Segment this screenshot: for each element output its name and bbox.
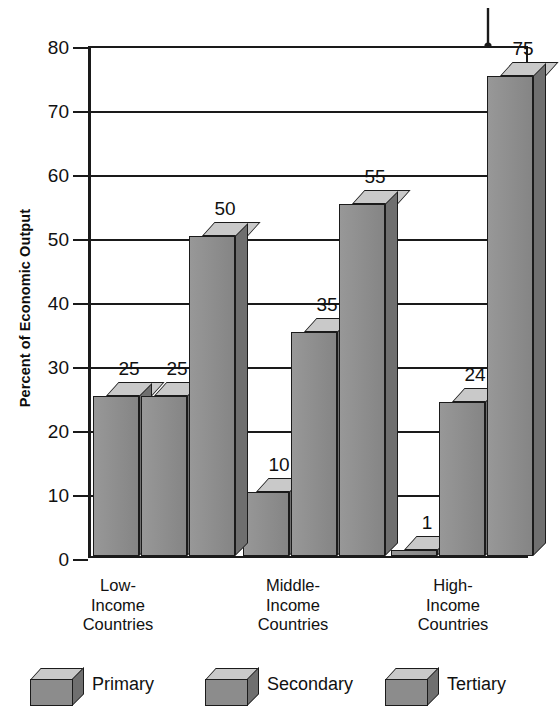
gridline-50	[91, 239, 526, 241]
bar-value-label: 35	[297, 294, 357, 316]
y-tick-label-70: 70	[48, 101, 69, 123]
y-tick-label-30: 30	[48, 357, 69, 379]
plot-area: 8070605040302010025255010355512475	[88, 46, 528, 558]
y-tick-20	[73, 431, 88, 433]
y-tick-label-50: 50	[48, 229, 69, 251]
y-tick-0	[73, 559, 88, 561]
bar-secondary-1	[291, 332, 337, 556]
category-label-line: Income	[378, 596, 528, 616]
category-label-line: Middle-	[218, 576, 368, 596]
legend-label-tertiary: Tertiary	[447, 674, 506, 695]
y-tick-30	[73, 367, 88, 369]
y-tick-50	[73, 239, 88, 241]
legend-swatch-cube-icon	[205, 668, 261, 706]
legend-swatch-cube-icon	[385, 668, 441, 706]
category-label-line: High-	[378, 576, 528, 596]
bar-value-label: 25	[147, 358, 207, 380]
bar-value-label: 24	[445, 364, 505, 386]
bar-tertiary-0	[189, 236, 235, 556]
category-label-line: Countries	[378, 615, 528, 635]
category-label-line: Countries	[43, 615, 193, 635]
y-tick-label-60: 60	[48, 165, 69, 187]
y-tick-label-0: 0	[58, 549, 69, 571]
y-axis-title: Percent of Economic Output	[17, 188, 33, 428]
bar-secondary-0	[141, 396, 187, 556]
bar-value-label: 50	[195, 198, 255, 220]
bar-primary-0	[93, 396, 139, 556]
legend-swatch-cube-icon	[30, 668, 86, 706]
y-tick-label-40: 40	[48, 293, 69, 315]
bar-tertiary-2	[487, 76, 533, 556]
category-label-2: High-IncomeCountries	[378, 576, 528, 635]
bar-tertiary-1	[339, 204, 385, 556]
y-tick-60	[73, 175, 88, 177]
category-label-line: Countries	[218, 615, 368, 635]
legend-label-primary: Primary	[92, 674, 154, 695]
legend-label-secondary: Secondary	[267, 674, 353, 695]
bar-value-label: 55	[345, 166, 405, 188]
y-tick-label-10: 10	[48, 485, 69, 507]
bar-value-label: 1	[397, 512, 457, 534]
category-label-0: Low-IncomeCountries	[43, 576, 193, 635]
bar-primary-2	[391, 550, 437, 556]
y-tick-label-20: 20	[48, 421, 69, 443]
gridline-70	[91, 111, 526, 113]
category-label-line: Low-	[43, 576, 193, 596]
bar-value-label: 75	[493, 38, 553, 60]
chart-legend: Primary Secondary Tertiary	[0, 662, 538, 710]
bar-value-label: 10	[249, 454, 309, 476]
bar-primary-1	[243, 492, 289, 556]
category-label-line: Income	[43, 596, 193, 616]
y-tick-40	[73, 303, 88, 305]
gridline-60	[91, 175, 526, 177]
y-tick-70	[73, 111, 88, 113]
y-tick-10	[73, 495, 88, 497]
y-tick-80	[73, 47, 88, 49]
category-label-1: Middle-IncomeCountries	[218, 576, 368, 635]
category-label-line: Income	[218, 596, 368, 616]
y-tick-label-80: 80	[48, 37, 69, 59]
